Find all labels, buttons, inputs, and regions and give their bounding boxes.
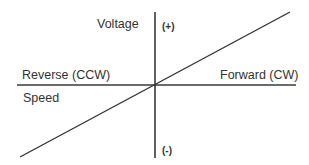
- voltage-speed-diagram: Voltage (+) Reverse (CCW) Forward (CW) S…: [0, 0, 309, 165]
- positive-voltage-label: (+): [162, 22, 175, 32]
- speed-axis-label: Speed: [23, 92, 59, 105]
- voltage-axis-label: Voltage: [97, 18, 139, 31]
- diagram-graphics: [0, 0, 309, 165]
- reverse-direction-label: Reverse (CCW): [22, 69, 110, 82]
- negative-voltage-label: (-): [162, 146, 172, 156]
- forward-direction-label: Forward (CW): [220, 69, 298, 82]
